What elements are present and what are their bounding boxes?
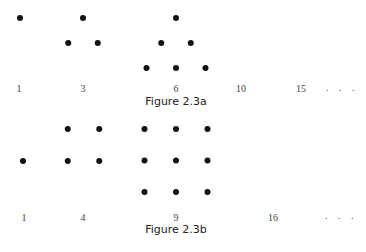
term-label: 4 (81, 212, 86, 223)
dot (96, 158, 102, 164)
term-label: 1 (22, 212, 27, 223)
dot (65, 40, 71, 46)
ellipsis: . . . (326, 82, 359, 93)
dot (65, 158, 71, 164)
dot (20, 158, 26, 164)
dot (158, 40, 164, 46)
dot (142, 126, 148, 132)
figure-caption: Figure 2.3b (145, 223, 207, 236)
dot (173, 65, 179, 71)
term-label: 10 (236, 83, 246, 94)
dot (205, 189, 211, 195)
dot (95, 40, 101, 46)
dot (65, 126, 71, 132)
dot (80, 15, 86, 21)
dot (173, 15, 179, 21)
term-label: 9 (174, 212, 179, 223)
triangular-dots (17, 15, 209, 71)
term-label: 16 (268, 212, 278, 223)
figure-2-3b: 1 4 9 16 . . . Figure 2.3b (20, 126, 358, 236)
dot (142, 158, 148, 164)
dot (173, 126, 179, 132)
dot (205, 126, 211, 132)
dot (96, 126, 102, 132)
figure-2-3a: 1 3 6 10 15 . . . Figure 2.3a (17, 15, 359, 108)
term-label: 6 (174, 83, 179, 94)
dot (17, 15, 23, 21)
dot (144, 65, 150, 71)
term-label: 15 (296, 83, 306, 94)
figure-caption: Figure 2.3a (145, 95, 206, 108)
dot (188, 40, 194, 46)
square-dots (20, 126, 211, 195)
dot (203, 65, 209, 71)
dot (205, 158, 211, 164)
ellipsis: . . . (325, 210, 358, 221)
dot (142, 189, 148, 195)
term-label: 3 (81, 83, 86, 94)
figurate-numbers-diagram: 1 3 6 10 15 . . . Figure 2.3a 1 4 9 16 .… (0, 0, 366, 252)
dot (173, 158, 179, 164)
dot (173, 189, 179, 195)
term-label: 1 (17, 83, 22, 94)
